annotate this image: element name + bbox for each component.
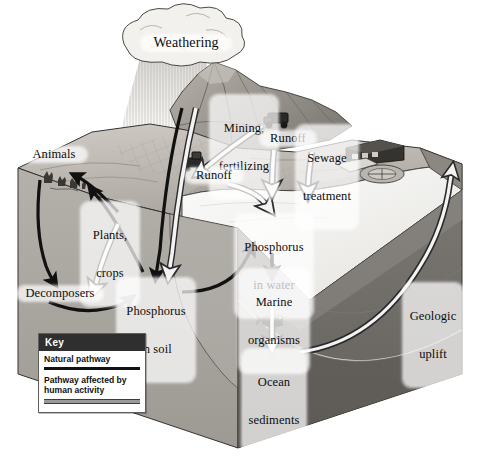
key-human-label: Pathway affected by human activity: [44, 376, 140, 396]
label-marine-line2: organisms: [242, 334, 306, 347]
label-weathering: Weathering: [142, 36, 230, 50]
label-plants-line1: Plants,: [84, 229, 136, 242]
label-decomposers: Decomposers: [18, 287, 102, 300]
label-marine-line1: Marine: [242, 296, 306, 309]
label-uplift-line1: Geologic: [406, 310, 460, 323]
label-plants-line2: crops: [84, 267, 136, 280]
label-uplift-line2: uplift: [406, 348, 460, 361]
key-human-swatch: [44, 399, 140, 404]
key-human-line1: Pathway affected: [44, 375, 114, 385]
label-ocean-line1: Ocean: [245, 376, 303, 389]
label-mining-fertilizing: Mining, fertilizing: [211, 96, 277, 198]
key-body: Natural pathway Pathway affected by huma…: [39, 351, 145, 404]
label-sewage-line2: treatment: [299, 190, 355, 203]
label-ocean-sediments: Ocean sediments: [243, 350, 305, 452]
label-sewage-treatment: Sewage treatment: [297, 126, 357, 228]
label-runoff-lower: Runoff: [186, 169, 242, 182]
label-sewage-line1: Sewage: [299, 152, 355, 165]
arrow-animals-to-decomposers: [38, 180, 54, 282]
label-animals: Animals: [22, 148, 86, 161]
label-ocean-line2: sediments: [245, 414, 303, 427]
key-title: Key: [39, 334, 145, 351]
label-p-soil-line1: Phosphorus: [120, 305, 192, 318]
label-geologic-uplift: Geologic uplift: [404, 284, 462, 386]
key-natural-swatch: [44, 367, 140, 370]
phosphorus-cycle-figure: Weathering Mining, fertilizing Runoff Se…: [0, 0, 477, 461]
label-p-water-line1: Phosphorus: [238, 241, 310, 254]
key-legend: Key Natural pathway Pathway affected by …: [38, 333, 146, 413]
key-natural-label: Natural pathway: [44, 355, 140, 365]
